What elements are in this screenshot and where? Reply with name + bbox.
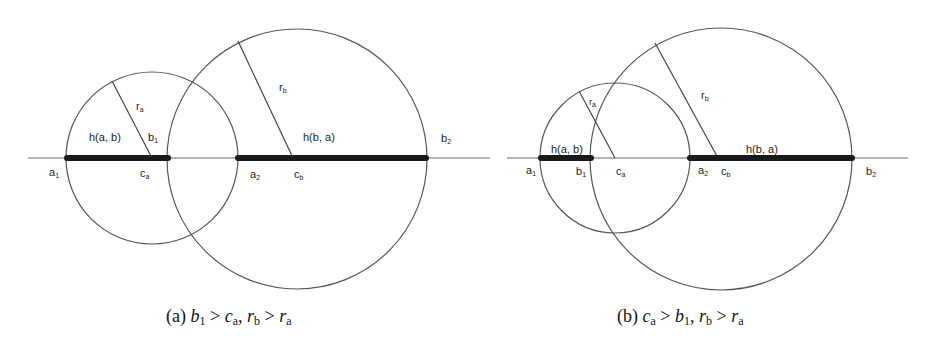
label-cb: cb xyxy=(294,168,304,181)
radius-b-line xyxy=(238,41,293,158)
caption-a-prefix: (a) xyxy=(166,306,186,326)
label-ca: ca xyxy=(140,167,150,180)
label-h-ba: h(b, a) xyxy=(746,143,778,155)
label-b2: b2 xyxy=(441,132,451,145)
label-b1: b1 xyxy=(148,131,158,144)
label-ra: ra xyxy=(589,97,596,108)
radius-a-line xyxy=(112,81,152,158)
caption-b: (b) ca > b1, rb > ra xyxy=(617,306,744,327)
label-b2: b2 xyxy=(866,165,876,178)
label-a2: a2 xyxy=(698,164,708,177)
label-a1: a1 xyxy=(49,166,59,179)
label-a1: a1 xyxy=(526,164,536,177)
panel-a: ra rb h(a, b) b1 h(b, a) b2 a1 ca a2 cb xyxy=(28,29,490,289)
label-b1: b1 xyxy=(576,165,586,178)
figure: ra rb h(a, b) b1 h(b, a) b2 a1 ca a2 cb … xyxy=(0,0,929,355)
label-ra: ra xyxy=(136,100,144,113)
label-rb: rb xyxy=(279,81,287,94)
label-rb: rb xyxy=(701,89,709,102)
label-ca: ca xyxy=(616,165,626,178)
label-h-ab: h(a, b) xyxy=(89,131,121,143)
radius-a-line xyxy=(579,91,615,158)
panel-b: ra rb h(a, b) h(b, a) a1 b1 ca a2 cb b2 xyxy=(507,28,908,290)
label-h-ba: h(b, a) xyxy=(303,131,335,143)
label-h-ab: h(a, b) xyxy=(551,143,583,155)
caption-a: (a) b1 > ca, rb > ra xyxy=(166,306,291,327)
caption-b-prefix: (b) xyxy=(617,306,638,326)
label-a2: a2 xyxy=(250,168,260,181)
label-cb: cb xyxy=(721,165,731,178)
